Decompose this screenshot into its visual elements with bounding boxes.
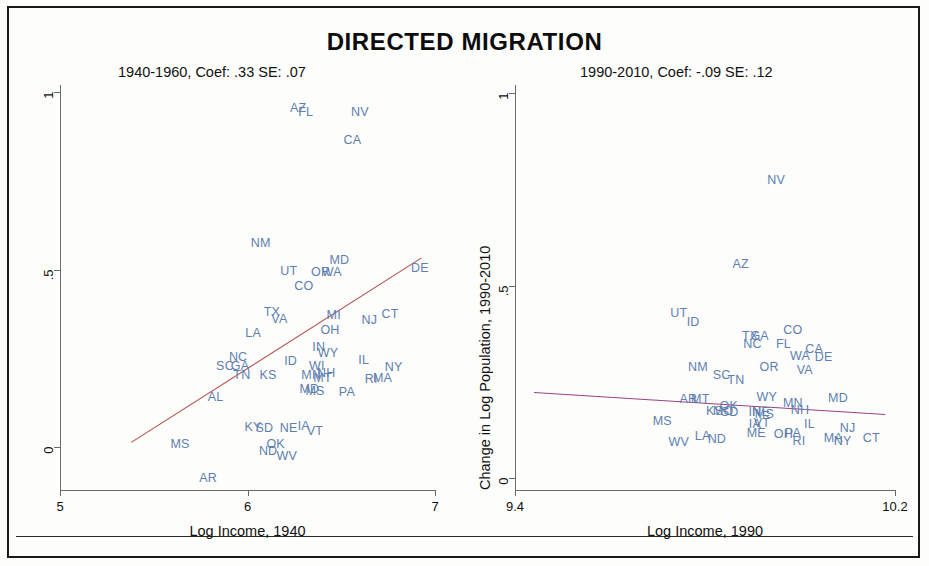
scatter-point-label: NH	[791, 403, 809, 417]
x-tick	[895, 490, 896, 496]
scatter-point-label: VA	[271, 312, 287, 326]
scatter-point-label: VT	[307, 424, 323, 438]
scatter-point-label: FL	[776, 337, 791, 351]
scatter-point-label: IL	[804, 417, 815, 431]
scatter-point-label: WV	[669, 435, 690, 449]
y-axis-line	[60, 85, 61, 490]
scatter-point-label: AL	[208, 390, 224, 404]
scatter-point-label: AZ	[732, 257, 748, 271]
scatter-point-label: TN	[233, 368, 250, 382]
regression-fit-line	[131, 257, 422, 443]
scatter-point-label: NV	[351, 105, 369, 119]
x-axis-title: Log Income, 1940	[189, 523, 305, 539]
scatter-point-label: SD	[255, 421, 273, 435]
scatter-point-label: DE	[411, 261, 429, 275]
x-axis-title: Log Income, 1990	[647, 523, 763, 539]
scatter-point-label: TN	[727, 373, 744, 387]
scatter-point-label: MS	[653, 414, 672, 428]
scatter-point-label: CA	[344, 133, 362, 147]
scatter-point-label: ND	[259, 444, 277, 458]
y-tick-label: 1	[41, 92, 56, 132]
x-tick-label: 9.4	[506, 499, 524, 514]
scatter-point-label: ME	[747, 426, 766, 440]
scatter-point-label: MS	[305, 384, 324, 398]
scatter-point-label: RI	[793, 434, 806, 448]
scatter-point-label: NM	[251, 236, 271, 250]
scatter-point-label: ND	[708, 432, 726, 446]
x-tick-label: 5	[56, 499, 63, 514]
scatter-point-label: UT	[670, 306, 687, 320]
scatter-point-label: CA	[805, 342, 823, 356]
y-tick-label: 1	[496, 92, 511, 132]
scatter-point-label: WY	[318, 346, 339, 360]
scatter-point-label: WV	[277, 449, 298, 463]
x-tick	[60, 490, 61, 496]
scatter-point-label: OH	[320, 323, 339, 337]
scatter-point-label: CT	[381, 307, 398, 321]
scatter-point-label: WY	[756, 390, 777, 404]
figure-title: DIRECTED MIGRATION	[0, 28, 929, 56]
scatter-point-label: MI	[327, 308, 341, 322]
scatter-point-label: NV	[767, 173, 785, 187]
x-tick-label: 7	[431, 499, 438, 514]
scatter-panel-1940-1960: 1.50567Log Income, 1940AZFLNVCANMMDDEUTO…	[60, 85, 435, 490]
scatter-point-label: NC	[743, 337, 761, 351]
scatter-point-label: CT	[863, 431, 880, 445]
scatter-point-label: CO	[783, 323, 802, 337]
scatter-point-label: UT	[280, 264, 297, 278]
scatter-point-label: IL	[358, 353, 369, 367]
scatter-point-label: MS	[170, 437, 189, 451]
figure-bottom-rule	[16, 536, 913, 537]
x-tick-label: 6	[244, 499, 251, 514]
scatter-point-label: ID	[284, 354, 297, 368]
scatter-point-label: MD	[828, 391, 848, 405]
y-axis-title: Change in Log Population, 1990-2010	[477, 246, 493, 490]
scatter-point-label: NY	[834, 434, 852, 448]
x-tick	[435, 490, 436, 496]
panel-subtitle-right: 1990-2010, Coef: -.09 SE: .12	[580, 64, 773, 80]
scatter-point-label: VA	[797, 363, 813, 377]
scatter-point-label: SD	[721, 405, 739, 419]
x-tick	[248, 490, 249, 496]
scatter-point-label: KS	[260, 368, 277, 382]
y-axis-line	[515, 85, 516, 490]
scatter-point-label: ID	[687, 315, 700, 329]
figure-canvas: DIRECTED MIGRATION 1940-1960, Coef: .33 …	[0, 0, 929, 566]
scatter-point-label: NJ	[362, 313, 378, 327]
x-tick-label: 10.2	[882, 499, 907, 514]
y-tick-label: .5	[41, 269, 56, 309]
scatter-point-label: NM	[688, 360, 708, 374]
scatter-point-label: AR	[199, 471, 217, 485]
x-tick	[515, 490, 516, 496]
x-axis-line	[515, 490, 895, 491]
scatter-point-label: LA	[245, 326, 261, 340]
scatter-point-label: WA	[322, 265, 342, 279]
scatter-point-label: CO	[294, 279, 313, 293]
scatter-point-label: NE	[280, 421, 298, 435]
scatter-point-label: RI	[365, 372, 378, 386]
panel-subtitle-left: 1940-1960, Coef: .33 SE: .07	[118, 64, 306, 80]
y-tick-label: .5	[496, 285, 511, 325]
scatter-point-label: OR	[760, 360, 779, 374]
y-tick-label: 0	[41, 447, 56, 487]
scatter-point-label: FL	[298, 105, 313, 119]
scatter-point-label: PA	[339, 385, 355, 399]
scatter-panel-1990-2010: 1.509.410.2Log Income, 1990Change in Log…	[515, 85, 895, 490]
